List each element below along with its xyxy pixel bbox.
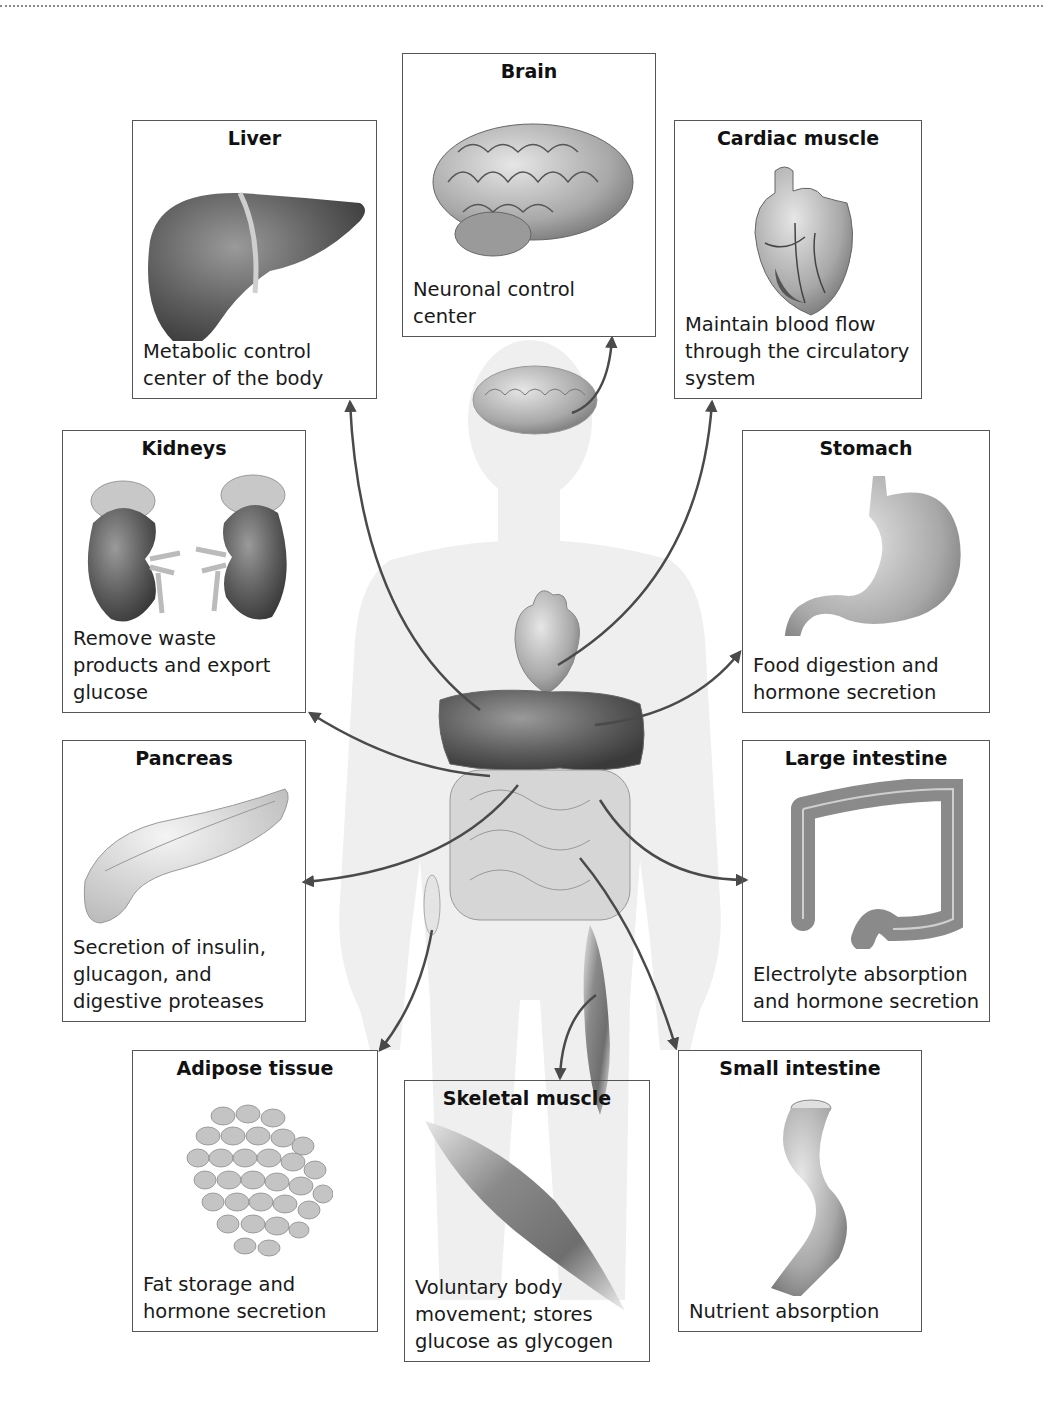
organ-box-skeletal-muscle: Skeletal muscle Voluntary body movement;… [404, 1080, 650, 1362]
box-description: Nutrient absorption [689, 1298, 915, 1325]
box-description: Food digestion and hormone secretion [753, 652, 983, 706]
kidneys-icon [78, 473, 293, 623]
pancreas-icon [75, 781, 295, 931]
abdomen-intestines [450, 770, 630, 920]
box-description: Voluntary body movement; stores glucose … [415, 1274, 643, 1355]
box-title: Adipose tissue [133, 1057, 377, 1079]
box-title: Skeletal muscle [405, 1087, 649, 1109]
box-description: Electrolyte absorption and hormone secre… [753, 961, 983, 1015]
organ-box-kidneys: Kidneys Remove waste products and export… [62, 430, 306, 713]
head-brain [473, 366, 597, 434]
organ-box-brain: Brain Neuronal control center [402, 53, 656, 337]
organ-box-large-intestine: Large intestine Electrolyte absorption a… [742, 740, 990, 1022]
adipose-icon [183, 1096, 333, 1266]
organ-box-adipose-tissue: Adipose tissue Fat storage and hormone s… [132, 1050, 378, 1332]
brain-icon [423, 112, 643, 272]
liver-icon [145, 181, 370, 341]
box-description: Neuronal control center [413, 276, 649, 330]
box-title: Pancreas [63, 747, 305, 769]
large-intestine-icon [783, 779, 963, 949]
heart-icon [735, 163, 855, 318]
box-description: Remove waste products and export glucose [73, 625, 299, 706]
box-description: Fat storage and hormone secretion [143, 1271, 371, 1325]
box-title: Brain [403, 60, 655, 82]
box-title: Large intestine [743, 747, 989, 769]
thigh-adipose [424, 875, 440, 935]
box-title: Small intestine [679, 1057, 921, 1079]
small-intestine-icon [749, 1096, 869, 1296]
stomach-icon [773, 476, 973, 636]
box-description: Metabolic control center of the body [143, 338, 370, 392]
organ-box-small-intestine: Small intestine Nutrient absorption [678, 1050, 922, 1332]
organ-box-pancreas: Pancreas Secretion of insulin, glucagon,… [62, 740, 306, 1022]
box-title: Cardiac muscle [675, 127, 921, 149]
box-description: Maintain blood flow through the circulat… [685, 311, 915, 392]
organ-box-liver: Liver Metabolic control center of the bo… [132, 120, 377, 399]
box-title: Liver [133, 127, 376, 149]
box-title: Stomach [743, 437, 989, 459]
box-title: Kidneys [63, 437, 305, 459]
organ-box-stomach: Stomach Food digestion and hormone secre… [742, 430, 990, 713]
box-description: Secretion of insulin, glucagon, and dige… [73, 934, 299, 1015]
organ-box-cardiac-muscle: Cardiac muscle Maintain blood flow throu… [674, 120, 922, 399]
